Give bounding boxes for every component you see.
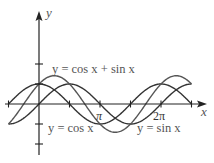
sum-curve-label: y = cos x + sin x (52, 62, 136, 76)
pi-tick-label: π (96, 109, 103, 123)
y-axis-label: y (44, 5, 52, 20)
x-axis-label: x (200, 104, 207, 119)
cos-curve-label: y = cos x (48, 121, 94, 135)
plot-area: y x π 2π y = cos x + sin x y = cos x y =… (0, 0, 214, 163)
sin-curve-label: y = sin x (137, 121, 181, 135)
